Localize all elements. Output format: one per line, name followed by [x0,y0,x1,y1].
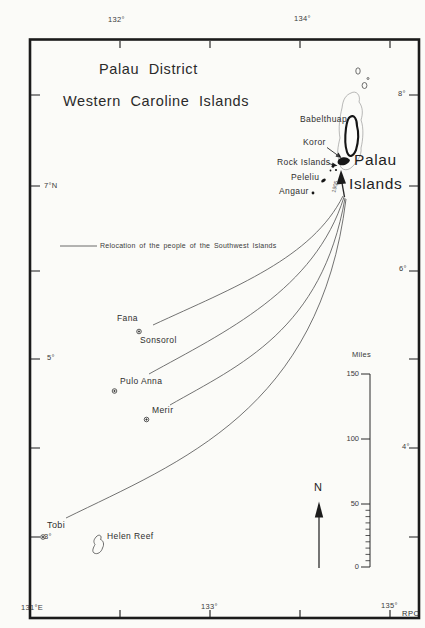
babelthuap-island [345,116,358,156]
scale-tick-50: 50 [341,500,359,508]
route-sonsorol [153,196,343,325]
helen-reef-outline [93,535,104,553]
bottom-graticule-ticks [30,610,390,617]
label-angaur: Angaur [279,187,309,196]
scale-tick-100: 100 [341,435,359,443]
island-markers [41,329,149,539]
label-pulo-anna: Pulo Anna [120,377,162,386]
label-tobi: Tobi [47,521,65,530]
right-graticule-ticks [409,95,418,537]
label-peleliu: Peleliu [291,173,319,182]
angaur-island [312,192,315,195]
scale-tick-150: 150 [341,370,359,378]
lon-label-131e: 131°E [21,604,43,612]
rock-islands-dots [330,165,338,171]
lon-label-132: 132° [108,16,125,24]
left-graticule-ticks [31,95,40,537]
lat-label-8: 8° [398,90,406,98]
label-helen-reef: Helen Reef [107,532,154,541]
lat-label-5: 5° [47,354,55,362]
island-marker-merir [144,417,149,422]
island-marker-fana [137,329,142,334]
label-palau-islands: Islands [349,176,402,192]
north-label: N [314,482,322,493]
lat-label-3: 3° [44,533,52,541]
label-fana: Fana [117,314,138,323]
scale-bar-minor-ticks [366,510,371,560]
island-marker-pulo-anna [112,389,117,394]
map-title-line2: Western Caroline Islands [63,94,249,109]
lat-label-6: 6° [399,265,407,273]
lon-label-135: 135° [381,602,398,610]
lat-label-7n: 7°N [44,182,58,190]
kayangel-atoll [356,68,369,89]
scale-bar-major-ticks [361,374,370,567]
scale-tick-0: 0 [341,563,359,571]
credit-label: RPC [402,610,419,618]
lat-label-4: 4° [402,443,410,451]
scale-bar [361,374,370,567]
lon-label-134: 134° [294,15,311,23]
koror-island [338,157,350,165]
map-frame [30,40,419,619]
lon-label-133: 133° [201,603,218,611]
map-page: Palau District Western Caroline Islands … [0,0,425,628]
map-title-line1: Palau District [99,62,198,77]
north-arrow [315,502,323,569]
peleliu-island [321,178,327,183]
scale-unit-label: Miles [352,351,371,359]
route-merir [170,198,345,405]
label-palau: Palau [354,152,397,168]
label-rock-islands: Rock Islands [277,158,330,167]
top-graticule-ticks [120,41,390,48]
legend-label: Relocation of the people of the Southwes… [100,242,276,249]
label-koror: Koror [303,138,326,147]
label-merir: Merir [152,406,173,415]
label-sonsorol: Sonsorol [140,336,177,345]
label-babelthuap: Babelthuap [300,115,347,124]
